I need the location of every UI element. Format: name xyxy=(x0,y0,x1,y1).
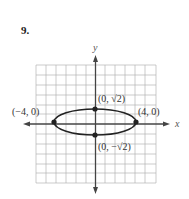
point-right xyxy=(133,119,138,124)
y-axis-label: y xyxy=(92,42,98,53)
point-top xyxy=(92,106,97,111)
label-left-point: (−4, 0) xyxy=(12,106,39,118)
label-right-point: (4, 0) xyxy=(138,106,160,118)
point-left xyxy=(51,119,56,124)
ellipse-graph: y x (0, √2) (−4, 0) (4, 0) (0, −√2) xyxy=(0,0,189,199)
x-axis-left-arrow-icon xyxy=(23,122,30,127)
x-axis-label: x xyxy=(174,118,180,129)
label-top-point: (0, √2) xyxy=(98,93,125,105)
x-axis-right-arrow-icon xyxy=(163,122,170,127)
point-bottom xyxy=(92,132,97,137)
label-bottom-point: (0, −√2) xyxy=(98,141,131,153)
y-axis-down-arrow-icon xyxy=(93,187,98,194)
y-axis-up-arrow-icon xyxy=(93,55,98,62)
